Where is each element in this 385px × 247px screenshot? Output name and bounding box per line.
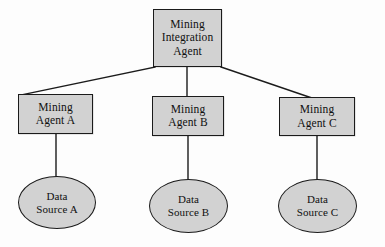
node-mining-agent-c[interactable]: Mining Agent C (279, 97, 355, 136)
node-label-line: Source C (297, 206, 338, 219)
node-mining-agent-a[interactable]: Mining Agent A (18, 94, 93, 134)
node-label-line: Data (307, 193, 328, 206)
node-label-line: Source B (168, 206, 209, 219)
node-label-line: Agent C (297, 117, 336, 130)
edge-integration-to-agent-c (221, 67, 312, 98)
node-label-line: Data (46, 190, 67, 203)
edge-integration-to-agent-a (21, 67, 155, 95)
node-label-line: Agent (173, 45, 202, 58)
node-label-line: Mining (171, 103, 205, 116)
node-mining-agent-b[interactable]: Mining Agent B (152, 96, 224, 136)
node-data-source-a[interactable]: Data Source A (18, 176, 96, 229)
node-label-line: Agent A (36, 114, 75, 127)
node-label-line: Source A (36, 203, 77, 216)
node-label-line: Data (178, 193, 199, 206)
node-mining-integration-agent[interactable]: Mining Integration Agent (153, 9, 222, 67)
node-label-line: Agent B (168, 116, 207, 129)
node-label-line: Mining (300, 103, 334, 116)
architecture-diagram: Mining Integration Agent Mining Agent A … (0, 0, 385, 247)
node-label-line: Mining (170, 18, 204, 31)
node-data-source-c[interactable]: Data Source C (278, 179, 357, 233)
node-label-line: Mining (38, 101, 72, 114)
node-data-source-b[interactable]: Data Source B (149, 179, 228, 233)
node-label-line: Integration (162, 31, 214, 44)
